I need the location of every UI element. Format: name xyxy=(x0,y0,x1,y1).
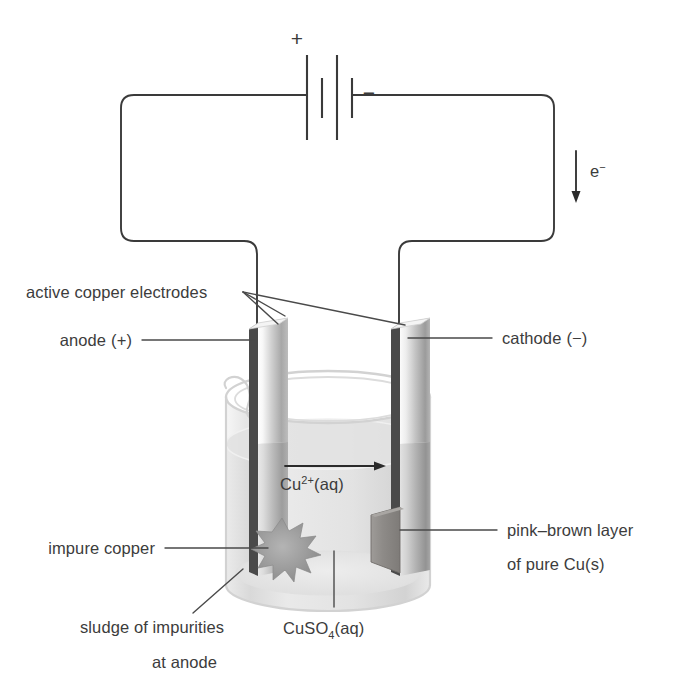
leader-active-electrodes-right xyxy=(243,292,405,325)
label-pink-brown-line1: pink–brown layer xyxy=(507,521,634,539)
label-anode: anode(+) xyxy=(60,331,132,349)
electron-flow-indicator: e− xyxy=(572,151,606,203)
diagram-canvas: + − e− xyxy=(0,0,674,689)
electron-flow-arrow-head xyxy=(572,191,581,203)
battery-symbol: + − xyxy=(291,27,375,140)
label-impure-copper: impure copper xyxy=(48,539,155,557)
cathode-face-dry xyxy=(400,318,430,444)
leader-active-electrodes-left xyxy=(243,292,278,324)
label-sludge-line2: at anode xyxy=(152,653,217,671)
label-active-copper-electrodes: active copper electrodes xyxy=(26,283,207,301)
label-pink-brown-line2: of pure Cu(s) xyxy=(507,555,605,573)
anode-edge xyxy=(249,323,258,576)
battery-positive-sign: + xyxy=(291,27,303,50)
cathode-face-wet xyxy=(400,442,430,576)
wire-right xyxy=(352,95,554,330)
label-electrolyte: CuSO4(aq) xyxy=(283,619,364,641)
label-sludge-line1: sludge of impurities xyxy=(80,618,224,636)
electron-label: e− xyxy=(590,161,606,180)
battery-negative-sign: − xyxy=(363,81,375,104)
label-cathode: cathode(−) xyxy=(502,329,587,347)
electrorefining-diagram: + − e− xyxy=(0,0,674,689)
anode-face-dry xyxy=(258,318,288,444)
